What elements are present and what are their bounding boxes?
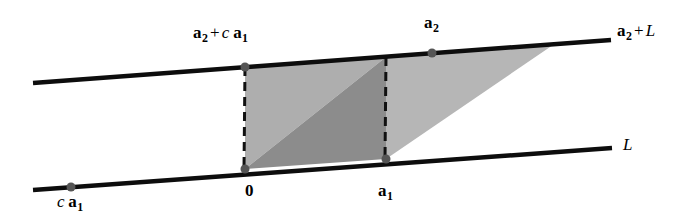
- label-origin: 0: [245, 182, 254, 199]
- point-a1: [382, 155, 391, 164]
- label-a2-plus-c-a1-c: c: [222, 23, 230, 42]
- label-a2-sub: 2: [433, 21, 439, 35]
- label-a2-plus-c-a1-a: a: [193, 23, 202, 42]
- label-c-a1-sub: 1: [77, 200, 83, 214]
- label-origin-text: 0: [245, 181, 254, 200]
- label-a2-plus-L-L: L: [646, 21, 656, 40]
- point-origin: [241, 165, 250, 174]
- label-a2: a2: [424, 14, 439, 31]
- label-a2-a: a: [424, 13, 433, 32]
- label-c-a1: c a1: [57, 193, 83, 210]
- label-a2-plus-c-a1-sub-b: 1: [242, 31, 248, 45]
- label-L-text: L: [623, 135, 633, 154]
- point-a2: [428, 49, 437, 58]
- label-a2-plus-c-a1-op: +: [208, 23, 222, 42]
- label-c-a1-a: a: [68, 192, 77, 211]
- label-a1: a1: [378, 182, 393, 199]
- label-a2-plus-c-a1-a2: a: [233, 23, 242, 42]
- label-a1-a: a: [378, 181, 387, 200]
- dashed-line-left: [244, 67, 245, 169]
- shaded-region-right-triangle: [386, 45, 553, 159]
- label-a2-plus-L-a: a: [617, 21, 626, 40]
- point-a2-plus-c-a1: [241, 63, 250, 72]
- vector-coset-diagram: a2+c a1 a2 a2+L L 0 a1 c a1: [0, 0, 694, 220]
- label-a2-plus-L: a2+L: [617, 22, 656, 39]
- label-L: L: [623, 136, 633, 153]
- diagram-canvas: [0, 0, 694, 220]
- point-c-a1: [67, 183, 76, 192]
- label-c-a1-c: c: [57, 192, 65, 211]
- label-a2-plus-L-op: +: [632, 21, 646, 40]
- label-a2-plus-c-a1: a2+c a1: [193, 24, 248, 41]
- label-a1-sub: 1: [387, 189, 393, 203]
